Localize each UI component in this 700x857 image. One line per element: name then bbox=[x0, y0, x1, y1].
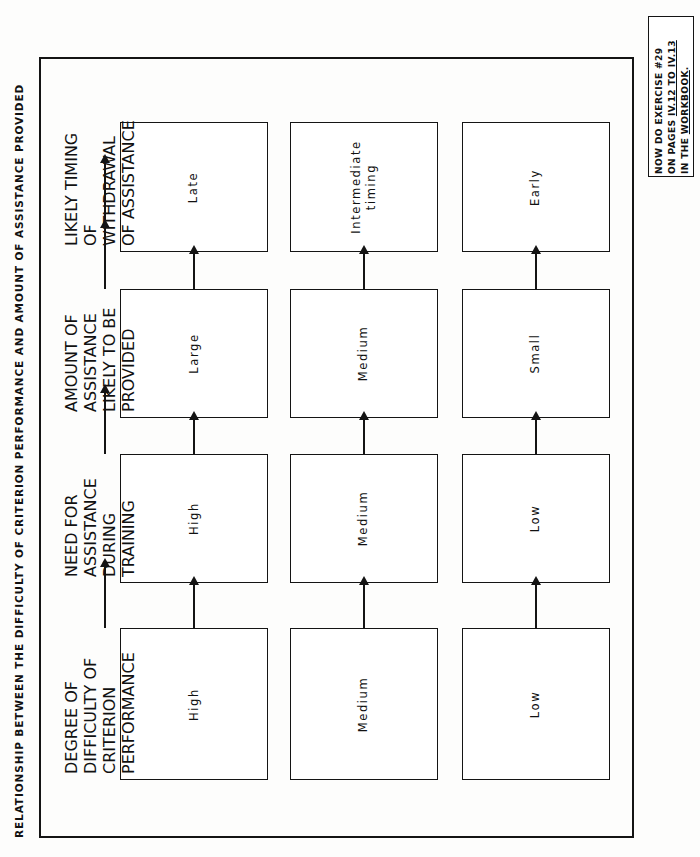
note-line-2-plain: ON PAGES bbox=[667, 116, 677, 174]
node-box: Intermediate timing bbox=[290, 122, 438, 252]
node-box: Medium bbox=[290, 454, 438, 583]
stage-header-need-for-assistance: NEED FOR ASSISTANCE DURING TRAINING bbox=[62, 452, 138, 577]
flow-arrow bbox=[363, 418, 365, 454]
note-line-1: NOW DO EXERCISE #29 bbox=[653, 17, 666, 174]
node-label-wrap: Intermediate timing bbox=[291, 123, 437, 251]
node-label: Medium bbox=[357, 326, 372, 382]
node-box: Low bbox=[462, 454, 610, 583]
node-label-wrap: Early bbox=[463, 123, 609, 251]
node-label: High bbox=[187, 502, 202, 535]
stage-header-amount-of-assistance: AMOUNT OF ASSISTANCE LIKELY TO BE PROVID… bbox=[62, 287, 138, 412]
node-label: Early bbox=[528, 168, 543, 205]
workbook-note-box: NOW DO EXERCISE #29 ON PAGES IV.12 TO IV… bbox=[648, 16, 694, 177]
note-line-3-tail: . bbox=[680, 66, 690, 70]
workbook-note-inner: NOW DO EXERCISE #29 ON PAGES IV.12 TO IV… bbox=[649, 17, 695, 178]
node-label: Intermediate timing bbox=[349, 140, 379, 233]
node-label: High bbox=[187, 688, 202, 721]
node-label-wrap: Medium bbox=[291, 290, 437, 417]
note-line-3-plain: IN THE bbox=[680, 134, 690, 174]
node-box: Small bbox=[462, 289, 610, 418]
node-box: High bbox=[120, 454, 268, 583]
flow-arrow bbox=[535, 252, 537, 289]
node-label: Low bbox=[528, 690, 543, 717]
node-box: Medium bbox=[290, 628, 438, 780]
node-label: Small bbox=[528, 334, 543, 374]
node-box: High bbox=[120, 628, 268, 780]
node-box: Early bbox=[462, 122, 610, 252]
flow-arrow bbox=[535, 583, 537, 628]
node-label-wrap: Medium bbox=[291, 455, 437, 582]
stage-header-likely-timing: LIKELY TIMING OF WITHDRAWAL OF ASSISTANC… bbox=[62, 120, 138, 246]
node-label-wrap: Low bbox=[463, 629, 609, 779]
flow-arrow bbox=[193, 418, 195, 454]
stage-header-stem bbox=[104, 162, 106, 252]
flow-arrow bbox=[193, 252, 195, 289]
node-label: Large bbox=[186, 333, 201, 373]
node-label-wrap: High bbox=[121, 455, 267, 582]
flow-arrow bbox=[535, 418, 537, 454]
node-box: Late bbox=[120, 122, 268, 252]
node-label: Low bbox=[528, 505, 543, 532]
node-label-wrap: High bbox=[121, 629, 267, 779]
note-line-2: ON PAGES IV.12 TO IV.13 bbox=[666, 17, 679, 174]
node-label: Late bbox=[186, 171, 201, 202]
node-box: Medium bbox=[290, 289, 438, 418]
stage-header-degree-of-difficulty: DEGREE OF DIFFICULTY OF CRITERION PERFOR… bbox=[62, 626, 138, 774]
flow-arrow bbox=[363, 583, 365, 628]
node-box: Large bbox=[120, 289, 268, 418]
node-box: Low bbox=[462, 628, 610, 780]
note-line-3: IN THE WORKBOOK. bbox=[679, 17, 692, 174]
node-label: Medium bbox=[357, 491, 372, 547]
flow-arrow bbox=[363, 252, 365, 289]
node-label-wrap: Small bbox=[463, 290, 609, 417]
page-title: RELATIONSHIP BETWEEN THE DIFFICULTY OF C… bbox=[8, 8, 30, 838]
node-label-wrap: Large bbox=[121, 290, 267, 417]
node-label: Medium bbox=[357, 676, 372, 732]
node-label-wrap: Medium bbox=[291, 629, 437, 779]
note-line-3-underlined: WORKBOOK bbox=[680, 70, 690, 134]
node-label-wrap: Low bbox=[463, 455, 609, 582]
stage-header-stem bbox=[104, 600, 106, 628]
node-label-wrap: Late bbox=[121, 123, 267, 251]
slide-page: RELATIONSHIP BETWEEN THE DIFFICULTY OF C… bbox=[0, 0, 700, 857]
note-line-2-underlined: IV.12 TO IV.13 bbox=[667, 40, 677, 116]
flow-arrow bbox=[193, 583, 195, 628]
